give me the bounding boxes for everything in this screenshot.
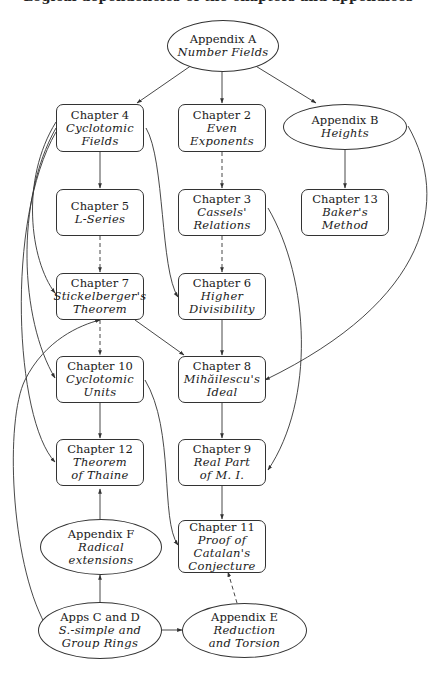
node-chapter-3: Chapter 3 Cassels' Relations [178,189,266,236]
node-subtitle: of Thaine [71,469,128,482]
edge-appB-ch8 [265,126,427,380]
edge-appA-ch4 [137,65,192,103]
edge-ch4-ch12 [21,132,56,462]
node-subtitle: Radical [78,541,124,554]
node-subtitle: Conjecture [188,560,255,573]
node-subtitle: Exponents [190,135,254,148]
node-subtitle: L-Series [75,213,126,226]
node-chapter-9: Chapter 9 Real Part of M. I. [178,439,266,486]
edge-ch4-ch7 [33,122,56,293]
node-chapter-10: Chapter 10 Cyclotomic Units [56,356,144,403]
node-chapter-2: Chapter 2 Even Exponents [178,104,266,152]
node-subtitle: extensions [69,554,134,567]
node-title: Chapter 5 [71,200,129,213]
node-title: Chapter 4 [71,109,129,122]
node-subtitle: Catalan's [194,547,251,560]
node-subtitle: Theorem [73,303,127,316]
node-subtitle: Fields [81,135,118,148]
node-chapter-11: Chapter 11 Proof of Catalan's Conjecture [178,520,266,573]
edge-appE-ch11 [228,572,237,603]
node-subtitle: Divisibility [189,303,255,316]
node-chapter-8: Chapter 8 Mihăilescu's Ideal [178,356,266,403]
node-chapter-6: Chapter 6 Higher Divisibility [178,273,266,320]
node-title: Chapter 2 [193,109,251,122]
node-subtitle: Heights [321,127,369,140]
node-apps-c-and-d: Apps C and D S.-simple and Group Rings [38,602,162,659]
node-subtitle: Method [322,219,369,232]
node-subtitle: Cyclotomic [66,122,134,135]
node-chapter-4: Chapter 4 Cyclotomic Fields [56,104,144,152]
node-chapter-12: Chapter 12 Theorem of Thaine [56,439,144,486]
edge-ch4-ch6 [146,128,178,297]
node-chapter-13: Chapter 13 Baker's Method [301,189,389,236]
node-subtitle: Even [207,122,237,135]
node-appendix-b: Appendix B Heights [283,104,407,150]
edge-ch7-ch8 [135,320,184,355]
edges-layer [0,0,437,676]
node-subtitle: of M. I. [200,469,245,482]
node-title: Appendix F [68,528,134,541]
edge-ch10-ch11 [145,380,178,545]
edge-ch3-ch9 [268,208,301,470]
node-subtitle: and Torsion [209,637,281,650]
node-subtitle: Proof of [198,534,247,547]
node-subtitle: Group Rings [62,637,138,650]
dependency-diagram: Logical dependencies of the chapters and… [0,0,437,676]
node-appendix-f: Appendix F Radical extensions [40,519,162,575]
edge-appA-appB [254,65,316,103]
node-chapter-7: Chapter 7 Stickelberger's Theorem [56,273,144,320]
node-subtitle: Relations [193,219,250,232]
node-subtitle: Units [84,386,117,399]
node-subtitle: Ideal [207,386,238,399]
node-appendix-a: Appendix A Number Fields [167,20,279,72]
node-title: Chapter 11 [189,521,255,534]
node-appendix-e: Appendix E Reduction and Torsion [182,603,307,658]
node-chapter-5: Chapter 5 L-Series [56,189,144,236]
node-subtitle: Number Fields [178,46,269,59]
